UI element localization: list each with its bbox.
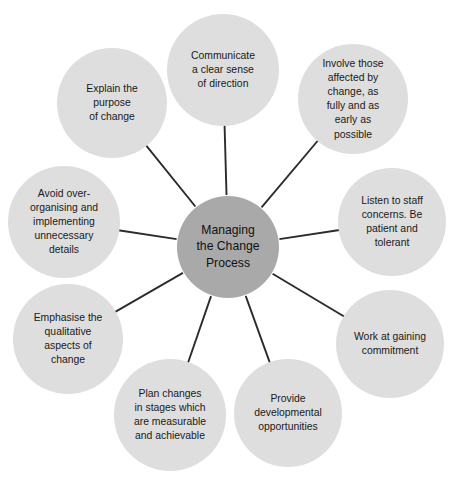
- radial-diagram: Communicatea clear senseof directionInvo…: [0, 0, 457, 484]
- node-developmental[interactable]: Providedevelopmentalopportunities: [234, 359, 342, 467]
- node-explain[interactable]: Explain thepurposeof change: [57, 48, 167, 158]
- node-listen[interactable]: Listen to staffconcerns. Bepatient andto…: [338, 168, 446, 276]
- center-node-group: Managingthe ChangeProcess: [177, 196, 279, 298]
- spoke-line-avoid: [118, 230, 176, 239]
- node-commitment[interactable]: Work at gainingcommitment: [336, 290, 444, 398]
- node-involve[interactable]: Involve thoseaffected bychange, asfully …: [298, 44, 408, 154]
- diagram-root: Communicatea clear senseof directionInvo…: [0, 0, 457, 484]
- spoke-line-explain: [146, 145, 196, 206]
- spoke-line-plan: [188, 296, 211, 363]
- node-plan[interactable]: Plan changesin stages whichare measurabl…: [114, 359, 226, 471]
- node-communicate-label: Communicatea clear senseof direction: [191, 50, 255, 89]
- node-avoid[interactable]: Avoid over-organising andimplementingunn…: [8, 166, 120, 278]
- spoke-line-emphasise: [115, 273, 183, 312]
- spoke-line-developmental: [246, 296, 270, 363]
- node-communicate[interactable]: Communicatea clear senseof direction: [167, 14, 279, 126]
- node-explain-label: Explain thepurposeof change: [86, 83, 138, 122]
- spoke-line-involve: [262, 140, 319, 207]
- node-emphasise[interactable]: Emphasise thequalitativeaspects ofchange: [13, 284, 123, 394]
- center-node[interactable]: Managingthe ChangeProcess: [177, 196, 279, 298]
- spoke-line-listen: [279, 230, 339, 239]
- spoke-line-communicate: [225, 125, 227, 195]
- spoke-line-commitment: [273, 274, 345, 317]
